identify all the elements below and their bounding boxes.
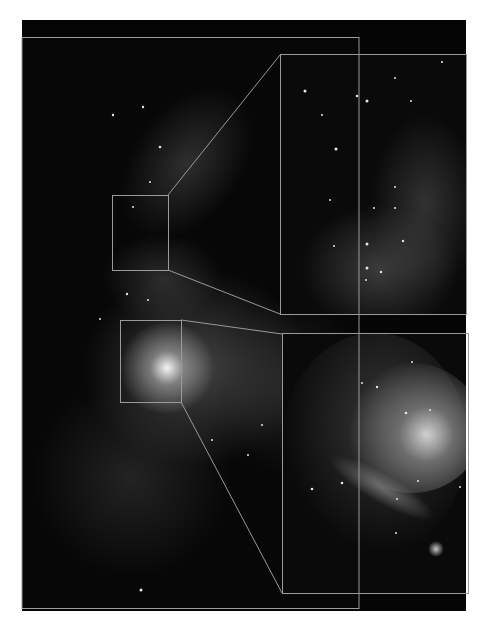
mid-glow [82,268,312,468]
image-frame [22,20,466,611]
inset-nebula-fill [282,333,466,553]
inset-core-glow [342,363,466,493]
upper-arc-wisp [93,62,281,264]
inset-bright-spot [428,541,444,557]
upper-inset-panel [280,54,466,314]
core-glow [117,323,217,413]
ridge-wisp [102,233,222,323]
inset-wisp-bottom [300,204,460,314]
inset-ridge [323,445,442,531]
core-inset-panel [282,333,466,593]
inset-wisp-right [370,114,466,294]
lower-left-wisp [32,378,232,578]
